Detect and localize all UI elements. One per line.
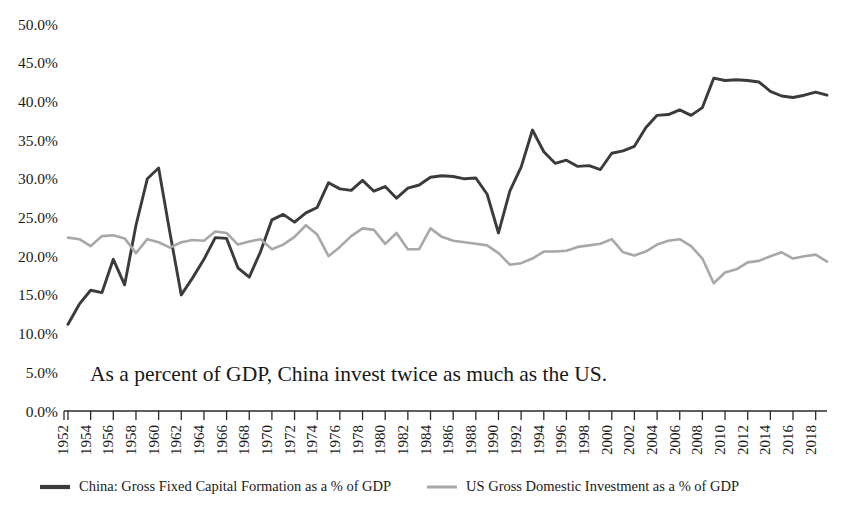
x-tick-label: 2018 [803,425,819,455]
chart-series-lines [68,78,827,324]
y-tick-label: 10.0% [18,325,58,342]
x-tick-label: 1954 [78,425,94,456]
x-tick-label: 1982 [395,425,411,455]
y-tick-label: 0.0% [26,403,58,420]
legend-label-china: China: Gross Fixed Capital Formation as … [79,478,391,494]
x-tick-label: 1974 [304,425,320,456]
x-tick-label: 1978 [350,425,366,455]
x-tick-label: 2004 [644,425,660,456]
x-tick-label: 1976 [327,425,343,456]
x-tick-label: 1962 [168,425,184,455]
x-tick-label: 2006 [667,425,683,456]
x-tick-label: 2002 [621,425,637,455]
chart-annotation: As a percent of GDP, China invest twice … [90,362,607,386]
y-tick-label: 25.0% [18,209,58,226]
x-tick-label: 1964 [191,425,207,456]
x-tick-label: 1956 [100,425,116,456]
legend-label-us: US Gross Domestic Investment as a % of G… [466,478,739,494]
y-axis-tick-labels: 50.0%45.0%40.0%35.0%30.0%25.0%20.0%15.0%… [18,16,58,420]
y-tick-label: 35.0% [18,132,58,149]
y-tick-label: 15.0% [18,286,58,303]
y-tick-label: 40.0% [18,93,58,110]
x-tick-label: 2012 [735,425,751,455]
y-tick-label: 50.0% [18,16,58,33]
y-tick-label: 5.0% [26,364,58,381]
y-tick-label: 20.0% [18,248,58,265]
x-tick-label: 2010 [712,425,728,455]
x-tick-label: 1972 [282,425,298,455]
x-tick-label: 1952 [55,425,71,455]
y-tick-label: 30.0% [18,170,58,187]
x-tick-label: 1968 [236,425,252,455]
x-tick-label: 1966 [214,425,230,456]
x-tick-label: 1986 [440,425,456,456]
x-tick-label: 1990 [485,425,501,455]
x-tick-label: 2016 [780,425,796,456]
series-line-china [68,78,827,324]
annotation-label: As a percent of GDP, China invest twice … [90,362,607,386]
chart-container: 50.0%45.0%40.0%35.0%30.0%25.0%20.0%15.0%… [0,0,843,507]
x-tick-label: 2000 [599,425,615,455]
chart-legend: China: Gross Fixed Capital Formation as … [40,478,739,494]
x-tick-label: 2014 [757,425,773,456]
x-tick-label: 1970 [259,425,275,455]
x-tick-label: 1988 [463,425,479,455]
x-tick-label: 2008 [689,425,705,455]
x-tick-label: 1958 [123,425,139,455]
x-tick-label: 1980 [372,425,388,455]
series-line-us [68,225,827,283]
x-tick-label: 1992 [508,425,524,455]
x-tick-label: 1984 [418,425,434,456]
x-tick-label: 1994 [531,425,547,456]
x-tick-label: 1996 [553,425,569,456]
line-chart: 50.0%45.0%40.0%35.0%30.0%25.0%20.0%15.0%… [0,0,843,507]
y-tick-label: 45.0% [18,54,58,71]
x-tick-label: 1960 [146,425,162,455]
x-axis: 1952195419561958196019621964196619681970… [55,411,827,455]
x-tick-label: 1998 [576,425,592,455]
